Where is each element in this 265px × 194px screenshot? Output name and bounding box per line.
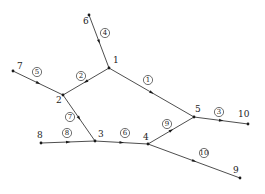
svg-text:2: 2	[79, 72, 83, 80]
edge-label-6: 6	[120, 128, 129, 137]
edge-labels-layer: 12345678910	[32, 28, 223, 157]
svg-text:9: 9	[165, 120, 169, 128]
node-8: 8	[37, 130, 43, 144]
edge-label-8: 8	[62, 128, 71, 137]
edge-label-4: 4	[100, 28, 109, 37]
arrow-icon	[192, 159, 197, 163]
arrow-icon	[66, 141, 71, 144]
svg-text:7: 7	[68, 113, 72, 121]
arrow-icon	[169, 128, 174, 133]
edges-layer	[13, 15, 248, 178]
node-6: 6	[83, 14, 90, 26]
svg-text:7: 7	[17, 61, 23, 71]
svg-text:9: 9	[233, 165, 239, 175]
edge-label-5: 5	[32, 67, 41, 76]
svg-text:2: 2	[56, 95, 62, 105]
svg-text:4: 4	[103, 29, 108, 37]
svg-text:10: 10	[200, 149, 209, 157]
svg-text:4: 4	[143, 132, 149, 142]
svg-text:6: 6	[83, 16, 89, 26]
svg-text:8: 8	[37, 130, 43, 140]
arrow-icon	[119, 141, 124, 144]
edge-label-3: 3	[214, 107, 223, 116]
nodes-layer: 12345678910	[12, 14, 250, 180]
node-5: 5	[193, 104, 201, 118]
svg-text:10: 10	[238, 109, 250, 119]
svg-text:1: 1	[113, 55, 119, 65]
network-diagram: 12345678910 12345678910	[0, 0, 265, 194]
arrow-icon	[149, 90, 154, 95]
arrow-icon	[36, 81, 41, 85]
edge-label-7: 7	[65, 112, 74, 121]
edge-label-10: 10	[199, 148, 208, 157]
node-2: 2	[56, 94, 64, 105]
svg-text:3: 3	[98, 129, 104, 139]
arrow-icon	[97, 39, 101, 44]
edge-label-2: 2	[76, 71, 85, 80]
svg-text:3: 3	[217, 108, 221, 116]
edge-label-1: 1	[143, 75, 152, 84]
node-7: 7	[12, 61, 23, 72]
svg-text:1: 1	[146, 76, 150, 84]
node-3: 3	[94, 129, 104, 142]
svg-text:5: 5	[195, 104, 201, 114]
svg-text:6: 6	[123, 129, 128, 137]
edge-label-9: 9	[162, 119, 171, 128]
svg-text:8: 8	[65, 129, 69, 137]
node-1: 1	[108, 55, 119, 69]
svg-text:5: 5	[35, 68, 39, 76]
